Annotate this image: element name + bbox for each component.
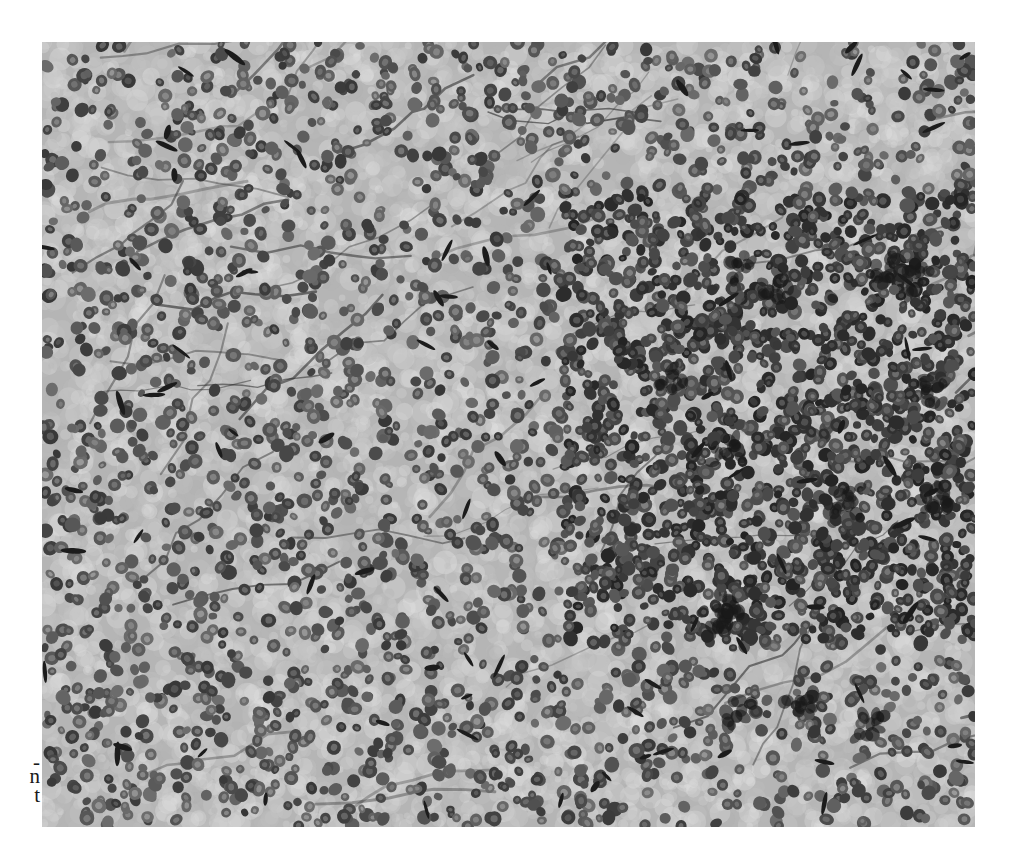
micrograph-image <box>42 42 975 827</box>
book-page: - n t <box>0 0 1011 851</box>
caption-fragment-t: t <box>0 785 40 806</box>
histology-micrograph <box>42 42 975 827</box>
